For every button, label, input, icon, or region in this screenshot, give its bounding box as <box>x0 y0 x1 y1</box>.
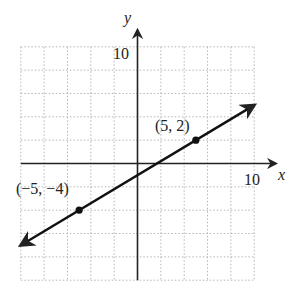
y-axis-label: y <box>122 9 132 27</box>
x-axis-label: x <box>277 166 285 183</box>
data-point-marker <box>76 207 83 214</box>
data-point-label: (−5, −4) <box>16 180 69 198</box>
x-tick-label: 10 <box>244 171 260 188</box>
data-points: (−5, −4)(5, 2) <box>16 117 199 214</box>
data-point-marker <box>192 137 199 144</box>
data-point-label: (5, 2) <box>155 117 190 135</box>
coordinate-plane: (−5, −4)(5, 2) x y 10 10 <box>0 0 296 283</box>
axes <box>21 30 276 280</box>
y-tick-label: 10 <box>113 45 129 62</box>
